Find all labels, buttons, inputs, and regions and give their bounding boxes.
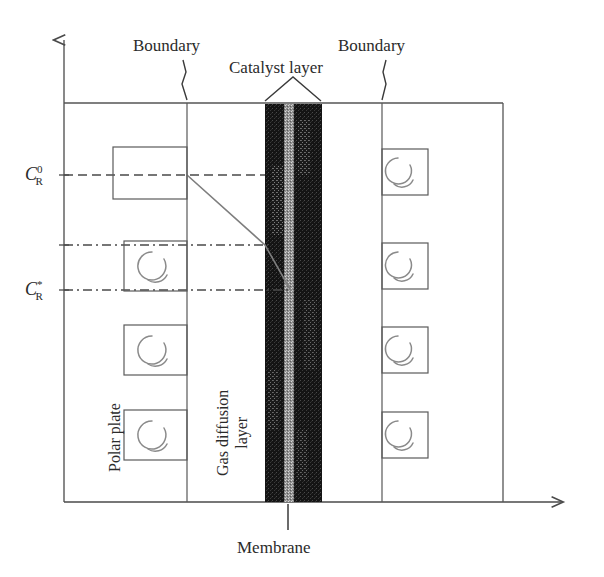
catalyst-layer-right-mottle2 bbox=[303, 300, 317, 370]
right-cell-1 bbox=[382, 243, 428, 289]
label-membrane: Membrane bbox=[237, 538, 311, 558]
left-cell-2 bbox=[124, 325, 187, 375]
swirl-icon bbox=[385, 421, 413, 450]
crstar-sup: * bbox=[37, 278, 43, 290]
cr0-sub: R bbox=[36, 175, 43, 187]
right-cell-2 bbox=[382, 327, 428, 373]
swirl-icon bbox=[138, 336, 167, 366]
label-polar-plate: Polar plate bbox=[106, 403, 124, 472]
left-cells-group bbox=[113, 147, 187, 460]
catalyst-layer-left-mottle2 bbox=[268, 370, 278, 430]
label-boundary-left: Boundary bbox=[133, 36, 200, 56]
reference-lines bbox=[64, 175, 292, 290]
catalyst-membrane-band bbox=[265, 104, 322, 502]
catalyst-layer-left-mottle bbox=[272, 165, 283, 235]
label-boundary-right: Boundary bbox=[338, 36, 405, 56]
y-axis-label-crstar: C*R bbox=[25, 278, 43, 302]
gas-diffusion-line1: Gas diffusion bbox=[214, 390, 232, 476]
leader-boundary-left bbox=[182, 60, 187, 100]
label-gas-diffusion-layer: Gas diffusion layer bbox=[214, 390, 251, 476]
leader-boundary-right bbox=[382, 60, 386, 100]
label-catalyst-layer: Catalyst layer bbox=[229, 58, 323, 78]
left-cell-1 bbox=[124, 241, 187, 291]
gas-diffusion-line2: layer bbox=[233, 390, 251, 476]
swirl-icon bbox=[385, 336, 413, 365]
swirl-icon bbox=[138, 421, 167, 451]
catalyst-layer-left-dark bbox=[265, 104, 284, 502]
crstar-sub: R bbox=[36, 290, 43, 302]
membrane-stripe bbox=[284, 104, 294, 502]
y-axis-label-cr0: C0R bbox=[25, 163, 43, 187]
pointer-catalyst-layer bbox=[265, 77, 321, 101]
schematic-svg bbox=[0, 0, 604, 577]
swirl-icon bbox=[385, 158, 413, 187]
figure-canvas: Boundary Boundary Catalyst layer Membran… bbox=[0, 0, 604, 577]
right-cell-0 bbox=[382, 149, 428, 195]
swirl-icon bbox=[138, 252, 167, 282]
swirl-icon bbox=[385, 252, 413, 281]
catalyst-layer-right-mottle bbox=[298, 120, 310, 175]
right-cells-group bbox=[382, 149, 428, 458]
cr0-sup: 0 bbox=[37, 163, 43, 175]
left-cell-0 bbox=[113, 147, 187, 199]
left-cell-3 bbox=[124, 410, 187, 460]
catalyst-layer-right-mottle3 bbox=[297, 430, 307, 480]
right-cell-3 bbox=[382, 412, 428, 458]
